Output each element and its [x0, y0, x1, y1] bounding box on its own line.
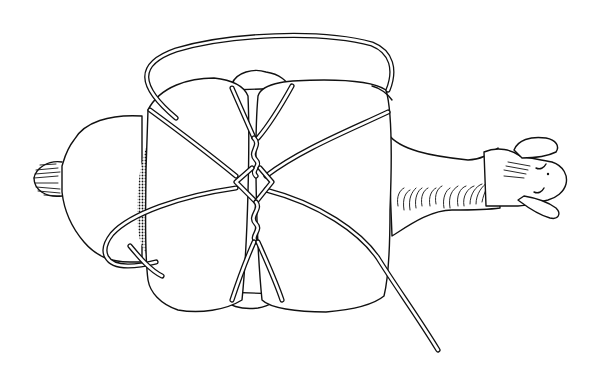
pack-animal-drawing — [0, 0, 590, 369]
tail-icon — [34, 162, 62, 197]
illustration-canvas: Top-down view of a pack animal carrying … — [0, 0, 590, 369]
rump-shape — [62, 116, 142, 262]
head-icon — [484, 138, 566, 219]
neck-shape — [388, 134, 500, 236]
